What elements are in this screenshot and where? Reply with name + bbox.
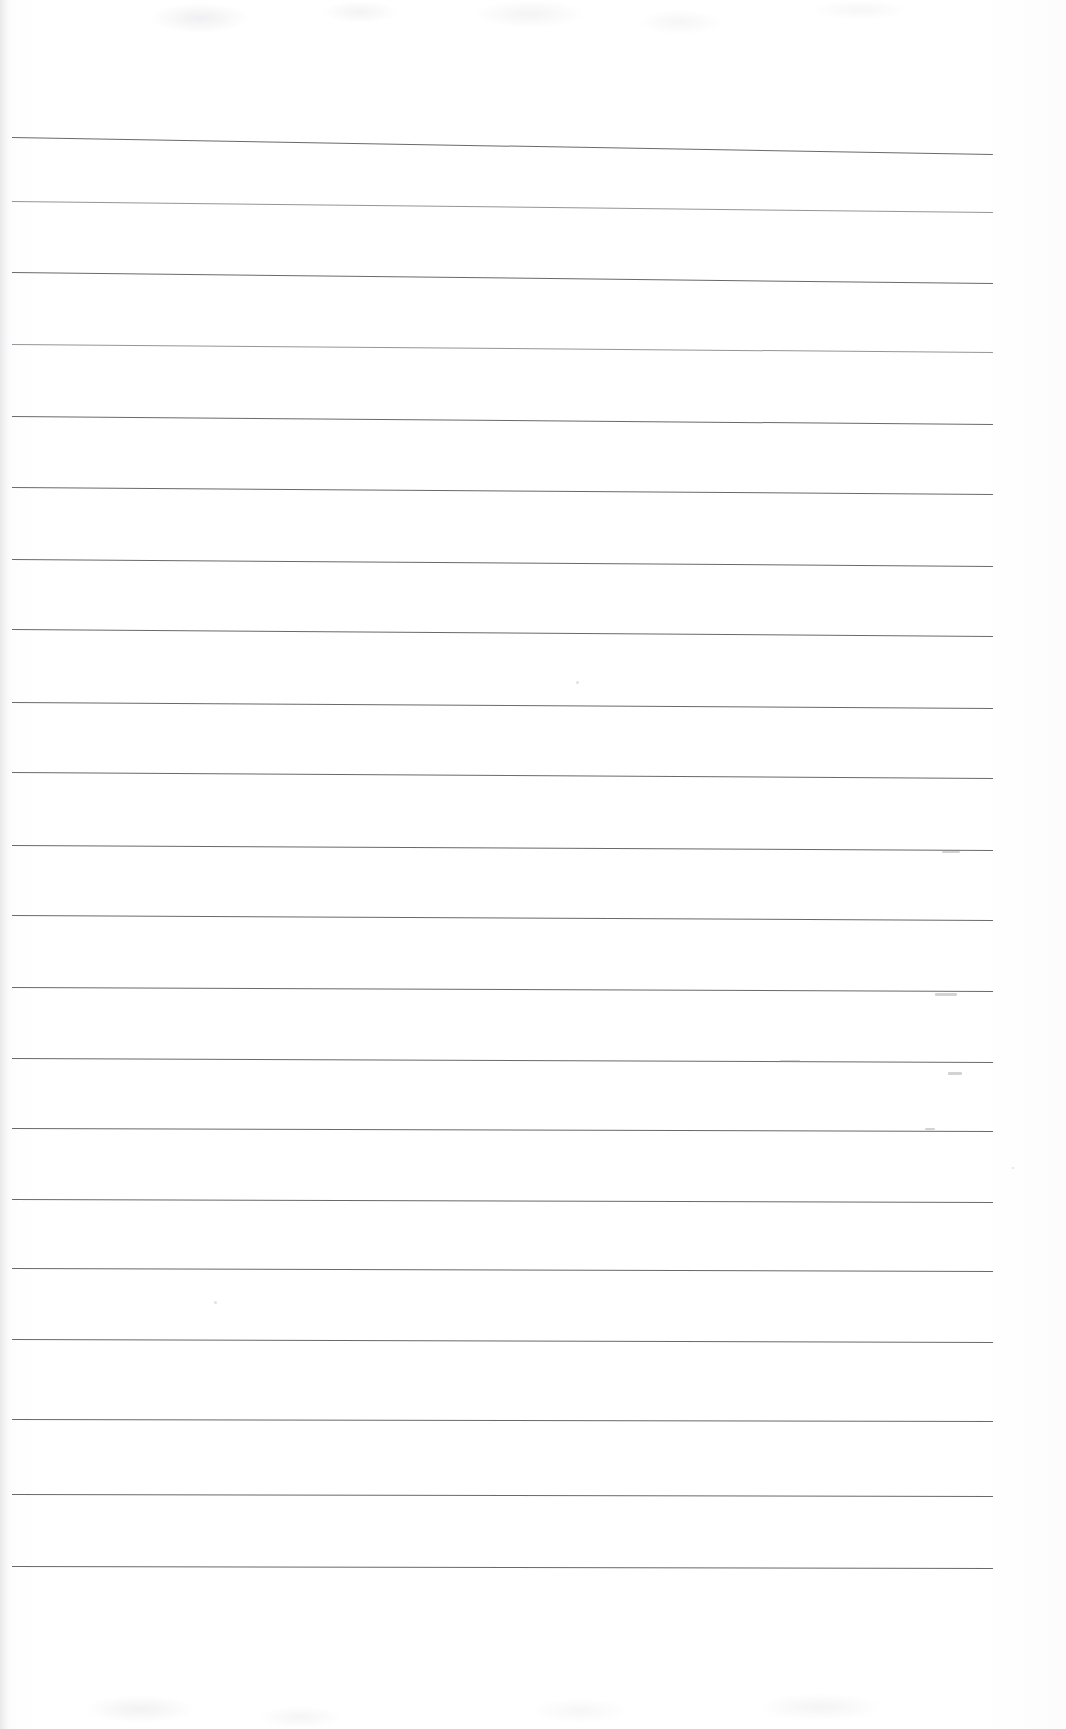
scan-artifact-mark xyxy=(942,851,960,853)
scan-artifact-top-band xyxy=(60,0,960,60)
ruled-line xyxy=(12,1339,993,1343)
ruled-line xyxy=(12,1494,993,1497)
ruled-line xyxy=(12,629,993,637)
scan-artifact-bottom-band xyxy=(20,1659,1000,1729)
ruled-line xyxy=(12,1058,993,1063)
ruled-line xyxy=(12,1566,993,1569)
scanned-page xyxy=(0,0,1066,1729)
ruled-line xyxy=(12,272,993,284)
ruled-line xyxy=(12,915,993,921)
ruled-line xyxy=(12,487,993,495)
scan-artifact-speck xyxy=(1012,1167,1014,1169)
ruled-line xyxy=(12,987,993,992)
scan-artifact-mark xyxy=(925,1128,935,1130)
ruled-line xyxy=(12,1268,993,1272)
ruled-line xyxy=(12,1199,993,1203)
ruled-line xyxy=(12,559,993,567)
ruled-line xyxy=(12,201,993,213)
scan-artifact-mark xyxy=(948,1072,962,1075)
paper-background xyxy=(0,0,1066,1729)
ruled-line xyxy=(12,344,993,353)
ruled-line xyxy=(12,137,993,155)
scan-artifact-mark xyxy=(780,1060,800,1062)
scan-artifact-speck xyxy=(576,681,579,684)
page-left-edge-shadow xyxy=(0,0,14,1729)
ruled-line xyxy=(12,416,993,425)
scan-artifact-mark xyxy=(935,993,957,996)
ruled-line xyxy=(12,1419,993,1422)
ruled-line xyxy=(12,772,993,779)
scan-artifact-speck xyxy=(214,1301,217,1304)
ruled-line xyxy=(12,845,993,851)
ruled-line xyxy=(12,702,993,709)
ruled-line xyxy=(12,1128,993,1132)
